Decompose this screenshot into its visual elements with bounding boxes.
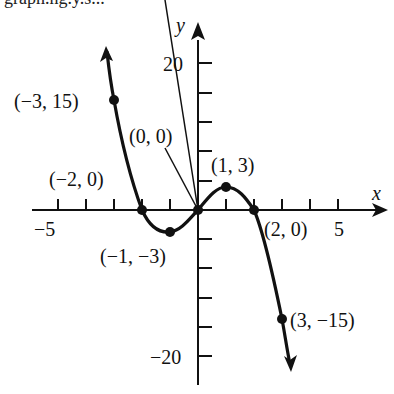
tick-label-x-5: 5 [334, 218, 344, 240]
point-1-3 [221, 182, 231, 192]
label-point-neg2-0: (−2, 0) [49, 168, 104, 191]
x-axis-label: x [371, 182, 381, 204]
y-axis-label: y [174, 14, 185, 37]
label-point-0-0: (0, 0) [129, 125, 172, 148]
label-point-1-3: (1, 3) [211, 154, 254, 177]
tick-label-x-neg5: −5 [34, 218, 55, 240]
point-2-0 [249, 205, 259, 215]
point-neg1-neg3 [165, 227, 175, 237]
label-point-2-0: (2, 0) [264, 218, 307, 241]
x-axis [32, 199, 388, 217]
tick-label-y-20: 20 [163, 53, 183, 75]
curve-arrow-down-icon [284, 355, 297, 372]
point-neg2-0 [137, 205, 147, 215]
y-axis-arrow-icon [191, 22, 205, 40]
label-point-neg3-15: (−3, 15) [14, 90, 79, 113]
label-point-3-neg15: (3, −15) [290, 309, 355, 332]
point-3-neg15 [277, 314, 287, 324]
point-neg3-15 [109, 95, 119, 105]
label-point-neg1-neg3: (−1, −3) [100, 245, 166, 268]
point-0-0 [193, 205, 203, 215]
polynomial-graph: y x −5 5 20 −20 (−3, 15) (−2, 0) (−1, −3… [0, 0, 394, 394]
tick-label-y-neg20: −20 [150, 346, 181, 368]
